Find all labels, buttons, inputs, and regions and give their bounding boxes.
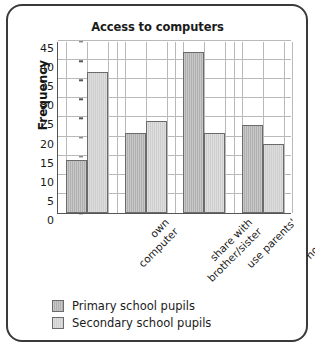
legend-label: Primary school pupils [72, 299, 195, 313]
bar [242, 125, 263, 213]
legend-label: Secondary school pupils [72, 316, 211, 330]
bar [263, 144, 284, 213]
x-tick-label: own computer [127, 216, 180, 269]
gridline-vertical [117, 42, 118, 213]
gridline-vertical [284, 42, 285, 213]
legend-item: Secondary school pupils [52, 316, 292, 330]
bar [87, 72, 108, 213]
x-axis-tick-labels: own computershare with brother/sisteruse… [57, 216, 291, 294]
plot-area [57, 42, 291, 214]
legend-swatch-icon [52, 317, 64, 329]
gridline-horizontal [58, 40, 291, 41]
chart-title: Access to computers [0, 20, 315, 34]
x-tick-label: share with brother/sister [196, 216, 264, 284]
legend-swatch-icon [52, 300, 64, 312]
gridline-vertical [167, 42, 168, 213]
bar [125, 133, 146, 213]
gridline-vertical [234, 42, 235, 213]
gridline-vertical [175, 42, 176, 213]
bar [146, 121, 167, 213]
legend-item: Primary school pupils [52, 299, 292, 313]
y-axis-tick-labels: 051015202530354045 [26, 42, 54, 214]
bar [204, 133, 225, 213]
bar [183, 52, 204, 213]
gridline-vertical [292, 42, 293, 213]
bar [66, 160, 87, 214]
chart-page: Access to computers Frequency 0510152025… [0, 0, 315, 348]
chart-legend: Primary school pupilsSecondary school pu… [52, 299, 292, 333]
